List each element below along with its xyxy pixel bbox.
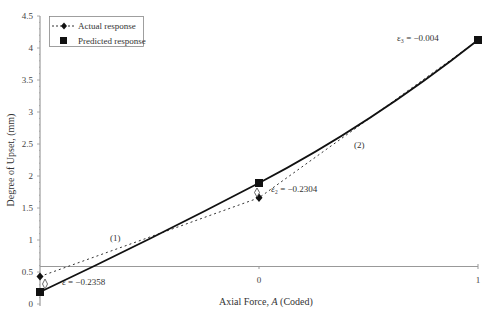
actual-marker-1 bbox=[37, 273, 44, 281]
actual-response-line bbox=[40, 40, 478, 276]
y-tick-1.5: 1.5 bbox=[22, 203, 34, 213]
epsilon-1-label: ε = −0.2358 bbox=[62, 277, 106, 287]
predicted-response-curve bbox=[40, 40, 478, 292]
epsilon-3-label: ε₃ = −0.004 bbox=[397, 33, 439, 43]
segment-2-label: (2) bbox=[354, 140, 365, 150]
predicted-marker-2 bbox=[255, 179, 263, 187]
y-tick-2: 2 bbox=[29, 171, 34, 181]
predicted-marker-3 bbox=[474, 36, 482, 44]
legend-predicted-marker bbox=[60, 37, 67, 44]
y-tick-4: 4 bbox=[29, 43, 34, 53]
y-tick-1: 1 bbox=[29, 235, 34, 245]
y-tick-2.5: 2.5 bbox=[22, 139, 34, 149]
y-tick-4.5: 4.5 bbox=[22, 11, 34, 21]
legend: Actual response Predicted response bbox=[50, 17, 146, 47]
y-axis-label: Degree of Upset, (mm) bbox=[5, 114, 17, 207]
legend-predicted-label: Predicted response bbox=[78, 36, 146, 46]
epsilon-2-label: ε₂ = −0.2304 bbox=[271, 184, 318, 194]
x-axis-label: Axial Force, A (Coded) bbox=[219, 296, 313, 308]
legend-actual-label: Actual response bbox=[78, 21, 136, 31]
y-tick-3.5: 3.5 bbox=[22, 75, 34, 85]
error-arrow-1-icon bbox=[43, 279, 48, 289]
chart-svg: 0 0.5 1 1.5 2 2.5 3 3.5 4 4.5 0 1 Axial … bbox=[0, 0, 491, 323]
x-tick-1: 1 bbox=[476, 275, 481, 285]
segment-1-label: (1) bbox=[110, 233, 121, 243]
y-tick-3: 3 bbox=[29, 107, 34, 117]
y-tick-0: 0 bbox=[29, 299, 34, 309]
x-tick-0: 0 bbox=[257, 275, 262, 285]
y-tick-0.5: 0.5 bbox=[22, 267, 34, 277]
predicted-marker-1 bbox=[36, 288, 44, 296]
